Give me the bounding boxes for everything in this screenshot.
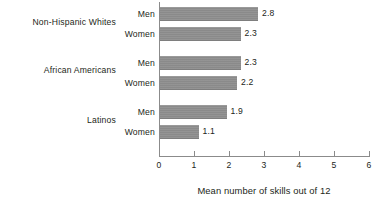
x-axis-tick-1 [194,151,195,157]
x-axis-tick-5 [334,151,335,157]
x-axis-tick-label-6: 6 [360,160,378,170]
group-label-non-hispanic-whites: Non-Hispanic Whites [32,17,116,27]
bar-value-african-americans-men: 2.3 [245,57,257,67]
x-axis-tick-label-1: 1 [185,160,203,170]
series-label-african-americans-women: Women [125,78,155,88]
x-axis-tick-6 [369,151,370,157]
series-label-latinos-men: Men [138,107,155,117]
x-axis-tick-label-5: 5 [325,160,343,170]
group-label-african-americans: African Americans [44,65,116,75]
bar-whites-women [160,27,241,41]
bar-value-whites-women: 2.3 [245,28,257,38]
x-axis-tick-0 [159,151,160,157]
bar-african-americans-women [160,76,237,90]
bar-whites-men [160,7,258,21]
x-axis-tick-2 [229,151,230,157]
group-label-latinos: Latinos [87,115,116,125]
series-label-whites-women: Women [125,29,155,39]
bar-value-latinos-men: 1.9 [231,106,243,116]
x-axis-tick-label-0: 0 [150,160,168,170]
x-axis-title: Mean number of skills out of 12 [159,185,369,196]
bar-value-african-americans-women: 2.2 [241,77,253,87]
bar-chart: Non-Hispanic Whites African Americans La… [0,0,379,205]
plot-area: 2.8 2.3 2.3 2.2 1.9 1.1 0123456 [159,0,369,158]
series-label-latinos-women: Women [125,127,155,137]
bar-african-americans-men [160,56,241,70]
bar-latinos-men [160,105,227,119]
x-axis-tick-4 [299,151,300,157]
bar-value-whites-men: 2.8 [262,8,274,18]
x-axis-tick-3 [264,151,265,157]
series-label-african-americans-men: Men [138,58,155,68]
x-axis-tick-label-2: 2 [220,160,238,170]
x-axis-tick-label-3: 3 [255,160,273,170]
bar-value-latinos-women: 1.1 [203,126,215,136]
series-label-whites-men: Men [138,9,155,19]
x-axis-tick-label-4: 4 [290,160,308,170]
bar-latinos-women [160,125,199,139]
